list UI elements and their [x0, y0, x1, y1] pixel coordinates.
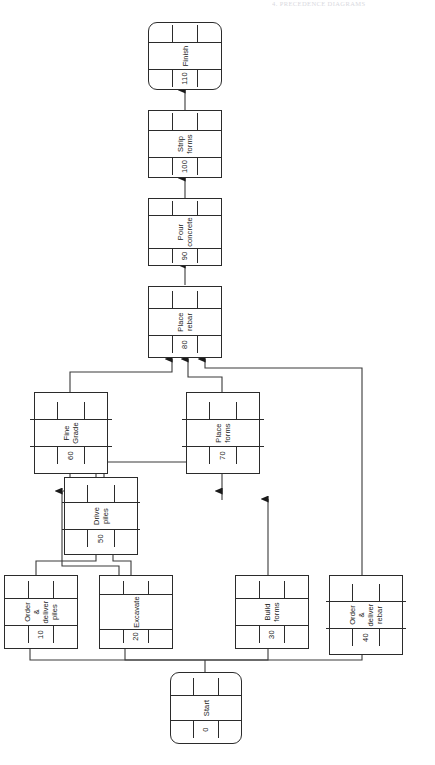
- node-finish-id: 110: [181, 72, 189, 85]
- node-drive-piles[interactable]: 50 Drivepiles: [64, 477, 138, 555]
- node-place-forms-id: 70: [219, 451, 227, 460]
- precedence-diagram-canvas: 110 Finish 100 Stripforms: [0, 0, 435, 765]
- node-strip-forms[interactable]: 100 Stripforms: [148, 110, 222, 178]
- node-start[interactable]: 0 Start: [170, 672, 242, 744]
- node-start-desc: Start: [202, 700, 211, 716]
- node-order-deliver-piles-desc: Order &deliverpiles: [23, 600, 59, 624]
- node-excavate[interactable]: 20 Excavate: [99, 575, 173, 649]
- node-pour-concrete[interactable]: 90 Pourconcrete: [148, 198, 222, 266]
- node-strip-forms-id: 100: [181, 160, 189, 173]
- node-finish[interactable]: 110 Finish: [148, 22, 222, 90]
- node-build-forms[interactable]: 30 Buildforms: [235, 575, 309, 649]
- node-place-forms-desc: Placeforms: [214, 423, 232, 442]
- node-order-deliver-rebar-id: 40: [362, 633, 370, 642]
- node-fine-grade[interactable]: 60 FineGrade: [34, 392, 108, 474]
- node-build-forms-desc: Buildforms: [263, 602, 281, 621]
- node-place-rebar-desc: Placerebar: [176, 312, 194, 331]
- node-start-id: 0: [202, 727, 210, 731]
- node-build-forms-id: 30: [268, 630, 276, 639]
- node-strip-forms-desc: Stripforms: [176, 134, 194, 153]
- node-place-rebar[interactable]: 80 Placerebar: [148, 286, 222, 358]
- node-place-forms[interactable]: 70 Placeforms: [186, 392, 260, 474]
- node-place-rebar-id: 80: [181, 340, 189, 349]
- node-fine-grade-desc: FineGrade: [62, 422, 80, 443]
- node-pour-concrete-id: 90: [181, 252, 189, 261]
- node-excavate-id: 20: [132, 632, 140, 641]
- node-drive-piles-desc: Drivepiles: [92, 507, 110, 525]
- node-drive-piles-id: 50: [97, 534, 105, 543]
- node-pour-concrete-desc: Pourconcrete: [176, 217, 194, 247]
- node-order-deliver-rebar-desc: Order &deliverrebar: [348, 603, 384, 627]
- node-fine-grade-id: 60: [67, 451, 75, 460]
- edge-60-to-80: [70, 359, 172, 392]
- node-order-deliver-piles[interactable]: 10 Order &deliverpiles: [4, 575, 78, 649]
- node-order-deliver-piles-id: 10: [37, 630, 45, 639]
- node-finish-desc: Finish: [181, 46, 190, 67]
- node-excavate-desc: Excavate: [132, 596, 141, 628]
- node-order-deliver-rebar[interactable]: 40 Order &deliverrebar: [329, 575, 403, 655]
